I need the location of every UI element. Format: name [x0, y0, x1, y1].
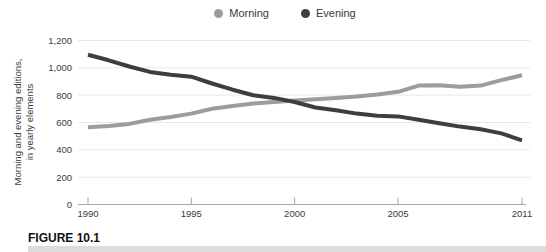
x-tick-label: 2005 [387, 208, 408, 219]
x-tick-label: 1990 [77, 208, 98, 219]
y-tick-label: 800 [56, 90, 72, 101]
y-tick-label: 0 [67, 199, 72, 210]
caption-bar [28, 246, 546, 252]
y-tick-label: 1,200 [48, 35, 72, 46]
y-tick-label: 200 [56, 172, 72, 183]
figure-caption-label: FIGURE 10.1 [28, 231, 100, 245]
x-tick-label: 2011 [512, 208, 532, 219]
series-line-morning [88, 75, 522, 127]
y-tick-label: 1,000 [48, 62, 72, 73]
x-tick-label: 1995 [181, 208, 202, 219]
y-tick-label: 400 [56, 144, 72, 155]
x-tick-label: 2000 [284, 208, 305, 219]
y-tick-label: 600 [56, 117, 72, 128]
